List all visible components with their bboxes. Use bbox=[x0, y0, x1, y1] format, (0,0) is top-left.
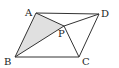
shaded-triangle-abp bbox=[15, 13, 64, 57]
parallelogram-diagram: A D P B C bbox=[0, 0, 119, 68]
segment-pc bbox=[64, 26, 79, 57]
label-d: D bbox=[101, 8, 109, 19]
label-a: A bbox=[24, 7, 33, 18]
label-p: P bbox=[58, 28, 65, 39]
label-c: C bbox=[82, 56, 90, 67]
label-b: B bbox=[4, 56, 11, 67]
